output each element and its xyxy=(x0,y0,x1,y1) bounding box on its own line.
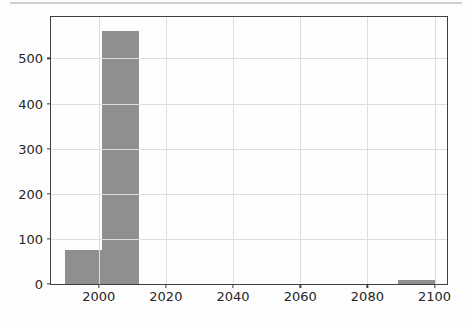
gridline-vertical xyxy=(300,17,301,284)
y-axis-tick-label: 400 xyxy=(18,97,43,110)
y-axis-tick-label: 500 xyxy=(18,52,43,65)
x-axis-tick xyxy=(98,284,99,288)
gridline-vertical xyxy=(166,17,167,284)
top-divider-line xyxy=(10,2,462,4)
x-axis-tick-label: 2100 xyxy=(418,290,451,303)
gridline-horizontal xyxy=(51,239,447,240)
x-axis-tick xyxy=(434,284,435,288)
gridline-horizontal xyxy=(51,194,447,195)
x-axis-tick-label: 2060 xyxy=(284,290,317,303)
gridline-vertical xyxy=(435,17,436,284)
y-axis-tick-label: 100 xyxy=(18,232,43,245)
y-axis-tick-label: 0 xyxy=(35,278,43,291)
plot-area: 2000202020402060208021000100200300400500 xyxy=(50,16,448,285)
histogram-bar xyxy=(398,280,435,284)
gridline-vertical xyxy=(367,17,368,284)
y-axis-tick xyxy=(47,283,51,284)
x-axis-tick-label: 2040 xyxy=(216,290,249,303)
gridline-vertical xyxy=(233,17,234,284)
gridline-horizontal xyxy=(51,104,447,105)
x-axis-tick-label: 2080 xyxy=(351,290,384,303)
gridline-horizontal xyxy=(51,58,447,59)
y-axis-tick-label: 200 xyxy=(18,187,43,200)
x-axis-tick-label: 2000 xyxy=(82,290,115,303)
y-axis-tick-label: 300 xyxy=(18,142,43,155)
x-axis-tick xyxy=(367,284,368,288)
x-axis-tick-label: 2020 xyxy=(149,290,182,303)
histogram-bar xyxy=(102,31,139,284)
screenshot-root: 2000202020402060208021000100200300400500 xyxy=(0,0,466,322)
x-axis-tick xyxy=(165,284,166,288)
x-axis-tick xyxy=(300,284,301,288)
gridline-vertical xyxy=(99,17,100,284)
histogram-bar xyxy=(65,250,102,284)
x-axis-tick xyxy=(232,284,233,288)
gridline-horizontal xyxy=(51,149,447,150)
